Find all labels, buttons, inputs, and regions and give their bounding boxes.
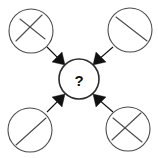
node-bottom-right-circle [106, 107, 150, 151]
arrow-from-bottom-right-head-icon [93, 94, 106, 107]
arrow-from-top-right-head-icon [93, 52, 106, 65]
center-node[interactable]: ? [59, 59, 99, 99]
center-node-question-mark: ? [74, 72, 83, 89]
node-bottom-left-circle [8, 108, 52, 152]
puzzle-diagram-canvas: ? [0, 0, 158, 158]
node-top-right-circle [108, 8, 152, 52]
node-top-left-circle [9, 9, 53, 53]
node-bottom-left[interactable] [8, 108, 52, 152]
arrow-from-bottom-left [47, 94, 65, 112]
node-top-right[interactable] [108, 8, 152, 52]
node-bottom-right[interactable] [106, 107, 150, 151]
arrow-from-top-left [47, 47, 65, 65]
node-top-left[interactable] [9, 9, 53, 53]
arrow-from-bottom-right [93, 94, 113, 112]
arrow-from-top-right [93, 47, 113, 65]
puzzle-diagram-container: ? [0, 0, 158, 158]
